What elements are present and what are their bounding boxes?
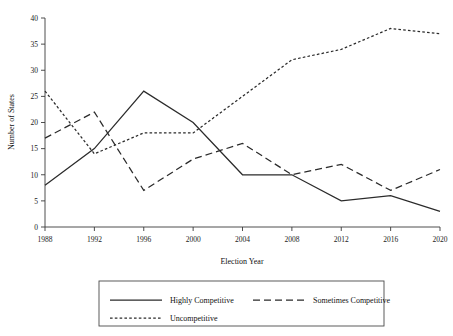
x-tick-label: 2020 bbox=[433, 235, 448, 244]
y-tick-label: 30 bbox=[31, 66, 39, 75]
series-line-1 bbox=[45, 91, 440, 211]
y-axis-title: Number of States bbox=[7, 94, 16, 150]
x-tick-label: 1992 bbox=[87, 235, 102, 244]
data-series-layer bbox=[45, 28, 440, 211]
line-chart: 0510152025303540 19881992199620002004200… bbox=[0, 0, 453, 336]
legend-label-3: Uncompetitive bbox=[170, 314, 218, 323]
x-tick-label: 2004 bbox=[235, 235, 250, 244]
y-tick-label: 5 bbox=[34, 197, 38, 206]
y-tick-label: 20 bbox=[31, 118, 39, 127]
y-tick-label: 25 bbox=[31, 92, 39, 101]
axes bbox=[45, 18, 440, 227]
legend-label-2: Sometimes Competitive bbox=[313, 296, 391, 305]
y-axis-ticks: 0510152025303540 bbox=[31, 14, 46, 232]
y-tick-label: 35 bbox=[31, 40, 39, 49]
x-axis-ticks: 198819921996200020042008201220162020 bbox=[38, 227, 448, 244]
x-tick-label: 1988 bbox=[38, 235, 53, 244]
series-line-3 bbox=[45, 28, 440, 153]
y-tick-label: 40 bbox=[31, 14, 39, 23]
x-axis-title: Election Year bbox=[220, 257, 263, 266]
legend-entries: Highly CompetitiveSometimes CompetitiveU… bbox=[110, 296, 391, 323]
legend-label-1: Highly Competitive bbox=[170, 296, 234, 305]
x-tick-label: 1996 bbox=[136, 235, 151, 244]
y-tick-label: 10 bbox=[31, 171, 39, 180]
series-line-2 bbox=[45, 112, 440, 190]
x-tick-label: 2016 bbox=[383, 235, 398, 244]
x-tick-label: 2008 bbox=[284, 235, 299, 244]
x-tick-label: 2000 bbox=[186, 235, 201, 244]
legend: Highly CompetitiveSometimes CompetitiveU… bbox=[99, 281, 391, 326]
y-tick-label: 15 bbox=[31, 144, 39, 153]
x-tick-label: 2012 bbox=[334, 235, 349, 244]
y-tick-label: 0 bbox=[34, 223, 38, 232]
chart-container: 0510152025303540 19881992199620002004200… bbox=[0, 0, 453, 336]
